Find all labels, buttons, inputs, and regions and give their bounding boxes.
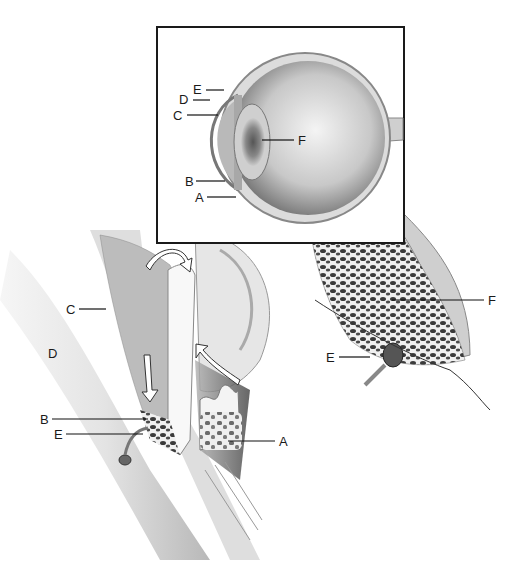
inset-label-E: E <box>193 82 202 97</box>
right-label-E: E <box>326 350 335 365</box>
inset-label-D: D <box>179 92 188 107</box>
right-canal-of-schlemm <box>383 343 403 367</box>
right-collector-vessel <box>365 365 385 385</box>
inset-label-F: F <box>298 133 306 148</box>
left-label-A: A <box>279 434 288 449</box>
right-detail-illustration <box>312 215 490 410</box>
inset-label-B: B <box>185 174 194 189</box>
inset-label-C: C <box>173 108 182 123</box>
inset-eye-panel <box>157 27 404 243</box>
canal-of-schlemm-vessel <box>119 455 131 465</box>
inset-label-A: A <box>195 190 204 205</box>
left-detail-illustration <box>0 230 270 560</box>
ciliary-body-cells <box>200 412 242 450</box>
left-label-E: E <box>54 427 63 442</box>
left-label-C: C <box>66 302 75 317</box>
lens-nucleus <box>241 118 265 166</box>
right-label-F: F <box>488 293 496 308</box>
eye-anatomy-diagram: E D C F B A C D B E A F E <box>0 0 519 564</box>
left-label-D: D <box>48 346 57 361</box>
left-label-B: B <box>40 412 49 427</box>
